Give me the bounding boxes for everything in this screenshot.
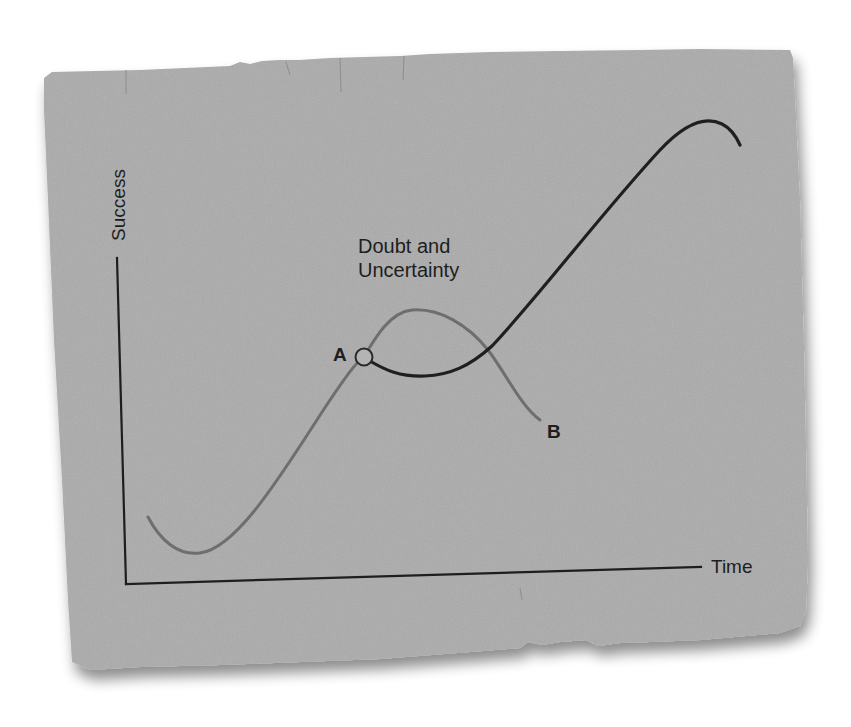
doubt-uncertainty-annotation: Doubt and Uncertainty <box>358 234 459 282</box>
y-axis-label: Success <box>109 169 128 241</box>
annotation-line-2: Uncertainty <box>358 258 459 282</box>
annotation-line-1: Doubt and <box>358 234 459 258</box>
diagram-canvas <box>0 0 851 727</box>
point-a-label: A <box>333 345 347 364</box>
diagram-stage: Success Time Doubt and Uncertainty A B <box>0 0 851 727</box>
paper-card <box>44 49 808 670</box>
point-a-marker <box>356 349 373 366</box>
x-axis-label: Time <box>711 557 753 576</box>
point-b-label: B <box>547 422 561 441</box>
